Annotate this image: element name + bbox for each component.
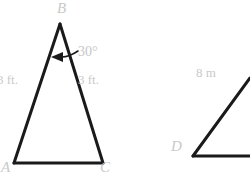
figure-svg — [0, 0, 250, 175]
triangle-side-ba — [14, 24, 60, 163]
ray-d-diagonal — [193, 78, 250, 156]
geometry-figure-canvas: B A C D 3 ft. 3 ft. 8 m 30° — [0, 0, 250, 175]
vertex-label-c: C — [100, 160, 110, 175]
angle-d-shape — [193, 78, 250, 156]
measure-label-right-leg: 3 ft. — [78, 73, 99, 86]
measure-label-ray-d: 8 m — [196, 66, 216, 79]
measure-label-left-leg: 3 ft. — [0, 73, 18, 86]
vertex-label-b: B — [57, 1, 66, 16]
vertex-label-a: A — [1, 160, 10, 175]
angle-pointer-arrow-icon — [51, 51, 78, 62]
vertex-label-d: D — [171, 139, 182, 154]
angle-label-apex: 30° — [78, 45, 98, 59]
